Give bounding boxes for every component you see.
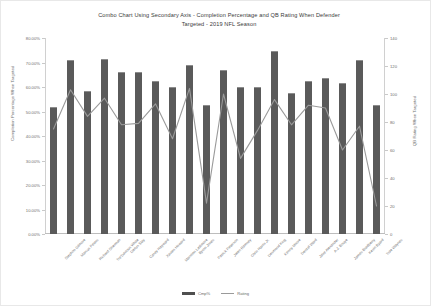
bar bbox=[305, 81, 311, 234]
bar bbox=[271, 51, 277, 234]
y-tick-label-secondary: 20 bbox=[390, 204, 395, 209]
x-axis-category-label: Trae Waynes bbox=[385, 238, 403, 256]
bar bbox=[356, 60, 362, 234]
y-tick-mark-secondary bbox=[385, 234, 388, 235]
legend-line-swatch-icon bbox=[221, 293, 234, 294]
y-axis-title-primary: Completion Percentage When Targeted bbox=[10, 66, 15, 141]
bar bbox=[288, 93, 294, 234]
bar bbox=[237, 87, 243, 234]
y-tick-label-primary: 80.00% bbox=[26, 36, 40, 41]
y-tick-mark-primary bbox=[42, 161, 45, 162]
x-axis-line bbox=[45, 233, 385, 234]
y-tick-label-primary: 60.00% bbox=[26, 85, 40, 90]
bar bbox=[254, 87, 260, 234]
bar bbox=[186, 65, 192, 234]
y-tick-label-primary: 50.00% bbox=[26, 109, 40, 114]
y-tick-label-secondary: 120 bbox=[390, 64, 397, 69]
y-tick-mark-primary bbox=[42, 210, 45, 211]
bar bbox=[339, 83, 345, 234]
chart-legend: Cmp% Rating bbox=[1, 291, 430, 296]
bar bbox=[135, 72, 141, 234]
y-axis-title-secondary: QB Rating When Targeted bbox=[412, 96, 417, 146]
y-tick-label-primary: 30.00% bbox=[26, 158, 40, 163]
y-tick-mark-secondary bbox=[385, 122, 388, 123]
y-tick-label-secondary: 80 bbox=[390, 120, 395, 125]
bar bbox=[50, 107, 56, 234]
y-tick-mark-secondary bbox=[385, 150, 388, 151]
y-tick-label-secondary: 40 bbox=[390, 176, 395, 181]
legend-label-rating: Rating bbox=[237, 291, 249, 296]
chart-title-line-2: Targeted - 2019 NFL Season bbox=[182, 21, 257, 27]
y-tick-mark-primary bbox=[42, 185, 45, 186]
bar bbox=[220, 70, 226, 234]
y-tick-label-primary: 40.00% bbox=[26, 134, 40, 139]
legend-bar-swatch-icon bbox=[182, 292, 195, 295]
y-tick-label-primary: 20.00% bbox=[26, 183, 40, 188]
legend-item-rating: Rating bbox=[221, 291, 249, 296]
bar bbox=[203, 105, 209, 234]
y-tick-label-primary: 70.00% bbox=[26, 60, 40, 65]
bar bbox=[101, 59, 107, 234]
chart-title: Combo Chart Using Secondary Axis - Compl… bbox=[49, 11, 389, 28]
y-tick-mark-primary bbox=[42, 136, 45, 137]
y-tick-mark-secondary bbox=[385, 38, 388, 39]
y-axis-line-primary bbox=[45, 38, 46, 234]
y-tick-label-secondary: 140 bbox=[390, 36, 397, 41]
y-tick-label-secondary: 60 bbox=[390, 148, 395, 153]
y-tick-label-secondary: 0 bbox=[390, 232, 392, 237]
bar bbox=[84, 91, 90, 234]
y-tick-label-primary: 0.00% bbox=[28, 232, 40, 237]
bar bbox=[67, 60, 73, 234]
x-axis-category-label: Denzel Ward bbox=[300, 238, 318, 256]
y-tick-label-secondary: 100 bbox=[390, 92, 397, 97]
bar bbox=[322, 78, 328, 234]
y-axis-line-secondary bbox=[384, 38, 385, 234]
y-tick-mark-primary bbox=[42, 63, 45, 64]
bar bbox=[169, 87, 175, 234]
combo-chart: Combo Chart Using Secondary Axis - Compl… bbox=[0, 0, 431, 306]
legend-label-cmp-pct: Cmp% bbox=[198, 291, 210, 296]
bar bbox=[118, 72, 124, 234]
legend-item-cmp-pct: Cmp% bbox=[182, 291, 210, 296]
y-tick-mark-primary bbox=[42, 38, 45, 39]
y-tick-mark-secondary bbox=[385, 206, 388, 207]
y-tick-label-primary: 10.00% bbox=[26, 207, 40, 212]
y-tick-mark-secondary bbox=[385, 66, 388, 67]
y-tick-mark-primary bbox=[42, 87, 45, 88]
plot-area: 0.00%10.00%20.00%30.00%40.00%50.00%60.00… bbox=[45, 38, 385, 234]
bar bbox=[152, 81, 158, 234]
y-tick-mark-secondary bbox=[385, 94, 388, 95]
y-tick-mark-primary bbox=[42, 112, 45, 113]
chart-title-line-1: Combo Chart Using Secondary Axis - Compl… bbox=[98, 12, 340, 18]
line-series-rating bbox=[45, 38, 385, 234]
bar bbox=[373, 105, 379, 234]
y-tick-mark-primary bbox=[42, 234, 45, 235]
y-tick-mark-secondary bbox=[385, 178, 388, 179]
